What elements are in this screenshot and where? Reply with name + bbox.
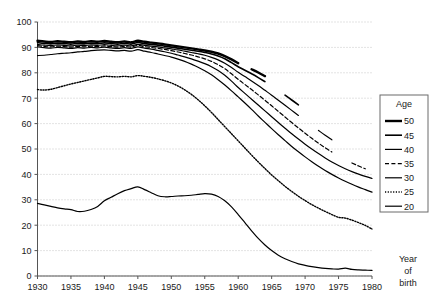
y-tick-label-40: 40 <box>21 170 31 180</box>
x-tick-label-1940: 1940 <box>94 282 114 292</box>
y-tick-label-20: 20 <box>21 221 31 231</box>
y-tick-label-10: 10 <box>21 246 31 256</box>
series-stub-40 <box>318 130 331 139</box>
series-stub-35 <box>352 163 365 169</box>
x-axis-title: Yearofbirth <box>399 254 417 288</box>
x-tick-label-1965: 1965 <box>262 282 282 292</box>
data-series-layer <box>38 41 373 271</box>
legend-label-35[interactable]: 35 <box>404 159 414 169</box>
x-tick-label-1950: 1950 <box>161 282 181 292</box>
legend-label-30[interactable]: 30 <box>404 173 414 183</box>
y-tick-label-100: 100 <box>16 17 31 27</box>
y-tick-label-60: 60 <box>21 119 31 129</box>
x-tick-label-1975: 1975 <box>329 282 349 292</box>
x-tick-label-1980: 1980 <box>362 282 382 292</box>
x-tick-label-1935: 1935 <box>61 282 81 292</box>
legend-label-45[interactable]: 45 <box>404 131 414 141</box>
x-axis-title-line-0: Year <box>399 254 417 264</box>
y-tick-label-80: 80 <box>21 68 31 78</box>
tick-marks <box>35 22 373 279</box>
x-axis-tick-labels: 1930193519401945195019551960196519701975… <box>27 282 382 292</box>
chart-figure: 1930193519401945195019551960196519701975… <box>0 0 433 303</box>
series-line-20 <box>38 50 373 192</box>
legend-label-50[interactable]: 50 <box>404 116 414 126</box>
y-tick-label-30: 30 <box>21 195 31 205</box>
x-tick-label-1945: 1945 <box>128 282 148 292</box>
series-stub-45 <box>285 95 298 105</box>
series-line-40 <box>38 44 299 115</box>
legend-label-20[interactable]: 20 <box>404 202 414 212</box>
x-tick-label-1955: 1955 <box>195 282 215 292</box>
y-tick-label-70: 70 <box>21 94 31 104</box>
y-tick-label-50: 50 <box>21 144 31 154</box>
x-tick-label-1970: 1970 <box>295 282 315 292</box>
legend-title: Age <box>396 99 412 109</box>
series-line-30 <box>38 47 373 179</box>
legend-label-40[interactable]: 40 <box>404 145 414 155</box>
series-line-25 <box>38 76 373 229</box>
x-axis-title-line-1: of <box>404 266 412 276</box>
y-tick-label-0: 0 <box>26 271 31 281</box>
legend-label-25[interactable]: 25 <box>404 187 414 197</box>
chart-legend: Age50454035302520 <box>380 95 428 212</box>
x-tick-label-1960: 1960 <box>228 282 248 292</box>
series-line-20-lower <box>38 187 373 271</box>
y-tick-label-90: 90 <box>21 43 31 53</box>
y-axis-tick-labels: 0102030405060708090100 <box>16 17 31 281</box>
x-tick-label-1930: 1930 <box>27 282 47 292</box>
axis-lines <box>38 22 373 276</box>
gridlines <box>38 22 373 276</box>
x-axis-title-line-2: birth <box>399 278 417 288</box>
line-chart-canvas: 1930193519401945195019551960196519701975… <box>0 0 433 303</box>
